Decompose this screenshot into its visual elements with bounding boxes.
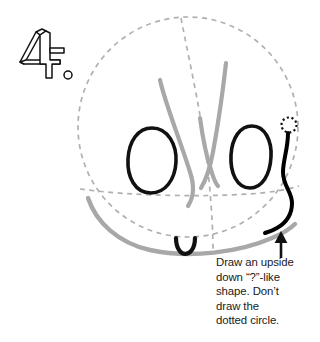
dashed-vertical-guide bbox=[181, 18, 213, 252]
black-mouth bbox=[176, 238, 195, 254]
tutorial-illustration: 4. Draw an upside down “?”-like shape. D… bbox=[0, 0, 320, 342]
dotted-reference-circle bbox=[282, 118, 297, 133]
step-number-glyph bbox=[20, 29, 72, 79]
grey-w-hair-shape bbox=[201, 63, 226, 188]
black-left-eye bbox=[128, 128, 176, 193]
black-right-eye bbox=[231, 126, 271, 188]
dashed-horizontal-guide bbox=[80, 186, 299, 196]
instruction-caption: Draw an upside down “?”-like shape. Don’… bbox=[216, 255, 320, 328]
